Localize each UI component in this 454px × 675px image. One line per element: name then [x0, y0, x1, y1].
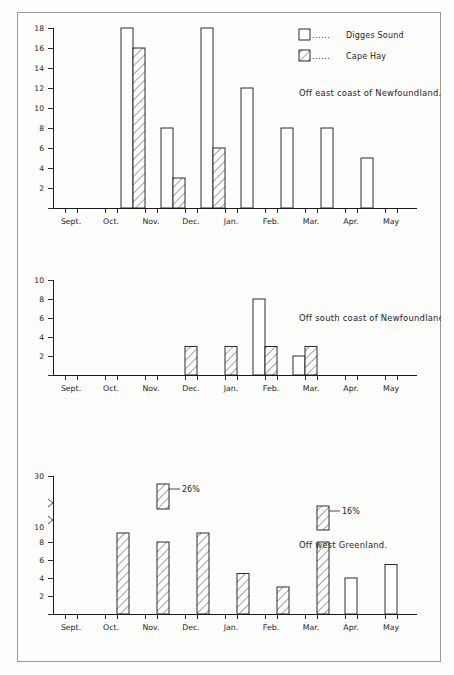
y-tick-label: 30	[34, 472, 44, 481]
x-tick-label: Nov.	[142, 384, 159, 393]
x-tick-label: Mar.	[303, 384, 319, 393]
x-tick-label: Sept.	[61, 384, 81, 393]
x-tick-label: Oct.	[103, 384, 119, 393]
x-tick-label: May	[383, 217, 400, 226]
bar-open-may	[385, 565, 397, 615]
x-tick-label: Apr.	[343, 217, 358, 226]
x-tick-label: Oct.	[103, 217, 119, 226]
bar-open-mar	[293, 356, 305, 375]
chart-panel-west-greenland: 2 4 6 8 10 30	[17, 462, 441, 642]
y-tick-label: 2	[39, 184, 44, 193]
panel-caption-east-newfoundland: Off east coast of Newfoundland.	[299, 88, 441, 98]
y-ticks-panel3	[48, 476, 53, 614]
y-tick-label: 16	[34, 44, 44, 53]
legend-label-digges-sound: Digges Sound	[346, 31, 404, 40]
figure-root: 2 4 6 8 10 12 14 16 18	[0, 0, 454, 675]
x-tick-label: Mar.	[303, 623, 319, 632]
x-tick-labels-panel1: Sept. Oct. Nov. Dec. Jan. Feb. Mar. Apr.…	[61, 217, 400, 226]
x-ticks-panel1	[65, 208, 397, 213]
x-tick-label: May	[383, 623, 400, 632]
x-ticks-panel2	[65, 375, 397, 380]
x-ticks-panel3	[65, 614, 397, 619]
chart-panel-south-newfoundland: 2 4 6 8 10	[17, 265, 441, 405]
legend-swatch-open-icon	[299, 29, 310, 40]
y-axis-break-marks	[48, 499, 53, 524]
x-tick-label: Dec.	[182, 623, 200, 632]
bar-open-nov	[121, 28, 133, 208]
x-tick-label: Feb.	[263, 384, 279, 393]
y-tick-label: 2	[39, 592, 44, 601]
bar-hatched-mar	[317, 542, 329, 614]
y-tick-label: 8	[39, 295, 44, 304]
y-tick-label: 4	[39, 164, 44, 173]
bar-open-may	[361, 158, 373, 208]
legend-label-cape-hay: Cape Hay	[346, 52, 386, 61]
x-tick-label: Jan.	[223, 384, 239, 393]
y-ticks-panel1	[48, 28, 53, 208]
x-tick-label: Feb.	[263, 217, 279, 226]
y-tick-label: 8	[39, 124, 44, 133]
bar-open-mar	[281, 128, 293, 208]
annotation-label-26-percent: 26%	[182, 485, 200, 494]
y-ticks-panel2	[48, 280, 53, 375]
bar-open-jan	[201, 28, 213, 208]
y-tick-label: 2	[39, 352, 44, 361]
y-tick-label: 10	[34, 104, 44, 113]
x-tick-label: Sept.	[61, 217, 81, 226]
bar-open-feb	[241, 88, 253, 208]
panel-caption-west-greenland: Off west Greenland.	[299, 540, 387, 550]
bar-hatched-nov	[133, 48, 145, 208]
bar-hatched-jan	[237, 574, 249, 615]
chart-svg-east-newfoundland: 2 4 6 8 10 12 14 16 18	[17, 12, 441, 237]
bar-hatched-jan	[213, 148, 225, 208]
chart-svg-south-newfoundland: 2 4 6 8 10	[17, 265, 441, 405]
x-tick-label: Mar.	[303, 217, 319, 226]
bar-hatched-dec	[197, 533, 209, 614]
x-tick-label: Apr.	[343, 623, 358, 632]
bar-hatched-dec	[185, 347, 197, 376]
y-tick-label: 8	[39, 538, 44, 547]
chart-legend: ...... Digges Sound ...... Cape Hay	[299, 29, 404, 61]
panel-caption-south-newfoundland: Off south coast of Newfoundland.	[299, 313, 441, 323]
legend-dots-open: ......	[312, 31, 330, 40]
legend-swatch-hatched-icon	[299, 50, 310, 61]
bar-open-dec	[161, 128, 173, 208]
y-tick-label: 18	[34, 24, 44, 33]
bar-open-feb	[253, 299, 265, 375]
bar-hatched-jan	[225, 347, 237, 376]
x-tick-labels-panel2: Sept. Oct. Nov. Dec. Jan. Feb. Mar. Apr.…	[61, 384, 400, 393]
y-tick-label: 10	[34, 276, 44, 285]
x-tick-label: Nov.	[142, 623, 159, 632]
y-tick-label: 14	[34, 64, 44, 73]
x-tick-label: Feb.	[263, 623, 279, 632]
bar-hatched-feb	[277, 587, 289, 614]
y-tick-labels-panel1: 2 4 6 8 10 12 14 16 18	[34, 24, 44, 193]
bar-hatched-mar-above-break	[317, 506, 329, 530]
bar-open-apr	[345, 578, 357, 614]
bar-hatched-nov-above-break	[157, 484, 169, 509]
y-tick-label: 6	[39, 556, 44, 565]
annotation-label-16-percent: 16%	[342, 507, 360, 516]
x-tick-label: Dec.	[182, 217, 200, 226]
legend-dots-hatched: ......	[312, 52, 330, 61]
bar-hatched-dec	[173, 178, 185, 208]
x-tick-label: Nov.	[142, 217, 159, 226]
bar-hatched-nov	[157, 542, 169, 614]
bar-hatched-oct	[117, 533, 129, 614]
x-tick-label: Dec.	[182, 384, 200, 393]
bar-hatched-mar	[305, 347, 317, 376]
y-tick-label: 6	[39, 314, 44, 323]
y-tick-labels-panel3: 2 4 6 8 10 30	[34, 472, 44, 601]
x-tick-label: May	[383, 384, 400, 393]
x-tick-labels-panel3: Sept. Oct. Nov. Dec. Jan. Feb. Mar. Apr.…	[61, 623, 400, 632]
chart-svg-west-greenland: 2 4 6 8 10 30	[17, 462, 441, 642]
x-tick-label: Apr.	[343, 384, 358, 393]
x-tick-label: Oct.	[103, 623, 119, 632]
y-tick-labels-panel2: 2 4 6 8 10	[34, 276, 44, 361]
bar-hatched-feb	[265, 347, 277, 376]
x-tick-label: Jan.	[223, 623, 239, 632]
y-tick-label: 4	[39, 574, 44, 583]
y-tick-label: 10	[34, 523, 44, 532]
bar-open-apr	[321, 128, 333, 208]
y-tick-label: 12	[34, 84, 44, 93]
